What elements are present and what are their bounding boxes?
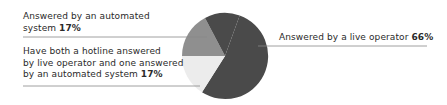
label-both: Have both a hotline answered by live ope… bbox=[23, 46, 183, 81]
label-automated: Answered by an automated system 17% bbox=[23, 11, 150, 34]
label-live: Answered by a live operator 66% bbox=[279, 32, 433, 44]
